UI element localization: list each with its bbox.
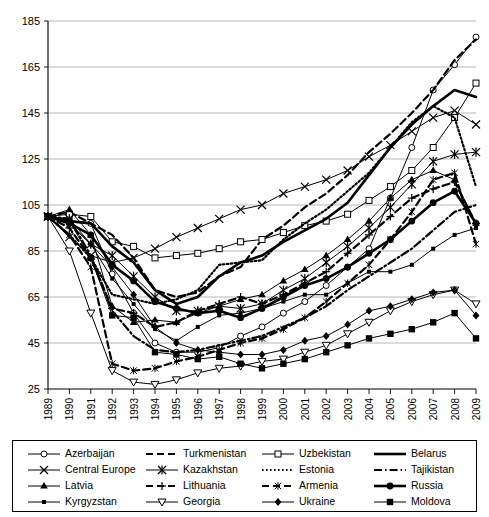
data-point-marker: [195, 250, 201, 256]
data-point-marker: [152, 255, 158, 261]
data-point-marker: [158, 482, 166, 490]
x-axis-tick-label: 1995: [171, 398, 182, 421]
data-point-marker: [387, 236, 394, 243]
x-axis-tick-label: 2004: [364, 398, 375, 421]
legend-label: Kazakhstan: [183, 464, 238, 475]
data-point-marker: [367, 270, 371, 274]
data-point-marker: [429, 157, 437, 166]
data-point-marker: [324, 293, 328, 297]
data-point-marker: [196, 325, 200, 329]
data-point-marker: [409, 168, 415, 174]
legend-item-central-europe[interactable]: Central Europe: [27, 462, 145, 478]
data-point-marker: [195, 356, 201, 362]
data-point-marker: [322, 252, 330, 259]
legend-item-kazakhstan[interactable]: Kazakhstan: [145, 462, 261, 478]
legend-item-russia[interactable]: Russia: [373, 478, 485, 494]
data-point-marker: [239, 311, 243, 315]
legend-item-georgia[interactable]: Georgia: [145, 494, 261, 510]
x-axis-tick-label: 2006: [407, 398, 418, 421]
legend-label: Russia: [411, 480, 443, 491]
legend-symbol-icon: [373, 448, 407, 460]
legend-item-tajikistan[interactable]: Tajikistan: [373, 462, 485, 478]
legend-item-turkmenistan[interactable]: Turkmenistan: [145, 446, 261, 462]
data-point-marker: [323, 332, 330, 340]
data-point-marker: [42, 500, 46, 504]
legend-item-lithuania[interactable]: Lithuania: [145, 478, 261, 494]
data-point-marker: [429, 185, 437, 193]
legend-symbol-icon: [27, 480, 61, 492]
legend-item-armenia[interactable]: Armenia: [261, 478, 373, 494]
data-point-marker: [451, 188, 458, 195]
data-point-marker: [172, 233, 180, 241]
data-point-marker: [323, 275, 330, 282]
data-point-marker: [66, 206, 74, 213]
legend-label: Tajikistan: [411, 464, 454, 475]
data-point-marker: [132, 302, 136, 306]
legend-item-kyrgyzstan[interactable]: Kyrgyzstan: [27, 494, 145, 510]
data-point-marker: [151, 381, 159, 388]
legend-label: Lithuania: [183, 480, 226, 491]
legend-grid: AzerbaijanTurkmenistanUzbekistanBelarusC…: [13, 441, 476, 511]
data-point-marker: [366, 307, 373, 315]
data-point-marker: [151, 245, 159, 253]
legend-symbol-icon: [373, 464, 407, 476]
x-axis-tick-label: 1993: [129, 398, 140, 421]
data-point-marker: [130, 254, 138, 262]
x-axis-tick-label: 2003: [343, 398, 354, 421]
legend-item-belarus[interactable]: Belarus: [373, 446, 485, 462]
data-point-marker: [302, 356, 308, 362]
data-point-marker: [344, 342, 350, 348]
legend-item-ukraine[interactable]: Ukraine: [261, 494, 373, 510]
legend-item-latvia[interactable]: Latvia: [27, 478, 145, 494]
data-point-marker: [366, 261, 372, 269]
x-axis-tick-label: 1989: [43, 398, 54, 421]
data-point-marker: [430, 319, 436, 325]
data-point-marker: [173, 305, 180, 312]
data-point-marker: [110, 277, 114, 281]
data-point-marker: [451, 310, 457, 316]
data-point-marker: [429, 167, 437, 174]
legend-item-moldova[interactable]: Moldova: [373, 494, 485, 510]
data-point-marker: [451, 107, 459, 115]
data-point-marker: [322, 258, 330, 267]
y-axis-tick-label: 105: [22, 199, 40, 211]
data-point-marker: [217, 313, 221, 317]
legend-label: Armenia: [299, 480, 338, 491]
x-axis-tick-label: 1990: [64, 398, 75, 421]
data-point-marker: [151, 316, 159, 323]
data-point-marker: [108, 368, 116, 375]
data-point-marker: [194, 224, 202, 232]
y-axis-tick-label: 165: [22, 61, 40, 73]
data-point-marker: [45, 213, 51, 219]
data-point-marker: [172, 318, 180, 326]
data-point-marker: [259, 351, 266, 359]
line-chart: 2545658510512514516518519891990199119921…: [0, 0, 489, 517]
data-point-marker: [344, 167, 352, 175]
data-point-marker: [131, 243, 137, 249]
data-point-marker: [387, 482, 394, 489]
legend-label: Azerbaijan: [65, 448, 115, 459]
data-point-marker: [387, 331, 393, 337]
data-point-marker: [365, 319, 373, 326]
legend-item-uzbekistan[interactable]: Uzbekistan: [261, 446, 373, 462]
data-point-marker: [344, 321, 351, 329]
data-point-marker: [387, 184, 393, 190]
legend-symbol-icon: [145, 464, 179, 476]
data-point-marker: [88, 214, 94, 220]
legend-item-azerbaijan[interactable]: Azerbaijan: [27, 446, 145, 462]
data-point-marker: [238, 239, 244, 245]
x-axis-tick-label: 2002: [321, 398, 332, 421]
data-point-marker: [344, 236, 352, 243]
data-point-marker: [302, 299, 308, 305]
data-point-marker: [301, 337, 308, 345]
legend-item-estonia[interactable]: Estonia: [261, 462, 373, 478]
data-point-marker: [280, 310, 286, 316]
data-point-marker: [259, 237, 265, 243]
data-point-marker: [473, 240, 479, 248]
data-point-marker: [410, 263, 414, 267]
data-point-marker: [237, 351, 244, 359]
data-point-marker: [409, 208, 415, 216]
data-point-marker: [430, 199, 437, 206]
y-axis-tick-label: 25: [28, 383, 40, 395]
data-point-marker: [258, 291, 266, 298]
